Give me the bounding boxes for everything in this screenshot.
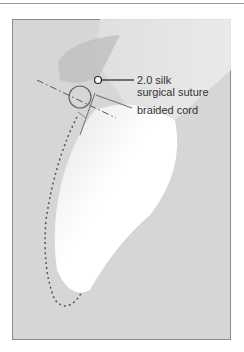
suture-label-line2: surgical suture — [137, 86, 209, 98]
cord-label: braided cord — [137, 104, 198, 116]
axis-line — [37, 80, 116, 118]
suture-label-line1: 2.0 silk — [137, 74, 171, 86]
tooth-root-shape — [55, 104, 177, 292]
suture-marker — [95, 77, 102, 84]
tooth-diagram — [0, 0, 244, 352]
